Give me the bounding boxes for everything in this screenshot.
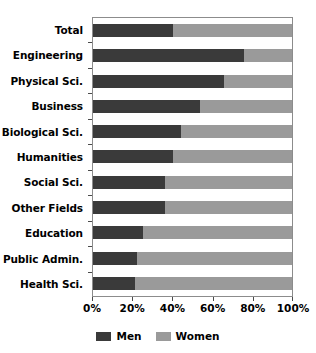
bar-segment-women xyxy=(135,277,292,290)
x-axis-tick-label: 80% xyxy=(240,302,265,314)
bar-row xyxy=(93,18,292,43)
bar-row xyxy=(93,170,292,195)
legend-swatch xyxy=(96,332,111,341)
bar-segment-women xyxy=(181,125,292,138)
stacked-bar xyxy=(93,24,292,37)
bar-row xyxy=(93,94,292,119)
bar-segment-men xyxy=(93,252,137,265)
x-axis-ticks xyxy=(92,297,293,301)
bar-segment-men xyxy=(93,226,143,239)
bar-segment-women xyxy=(224,75,292,88)
stacked-bar xyxy=(93,201,292,214)
bar-row xyxy=(93,220,292,245)
y-axis-label: Total xyxy=(0,17,88,42)
x-axis-tick xyxy=(213,297,214,301)
legend-label: Men xyxy=(116,330,141,342)
stacked-bar xyxy=(93,226,292,239)
bar-segment-women xyxy=(143,226,292,239)
bar-segment-women xyxy=(137,252,292,265)
plot-area xyxy=(92,17,293,297)
x-axis-labels: 0%20%40%60%80%100% xyxy=(92,302,293,318)
chart-legend: MenWomen xyxy=(0,330,316,342)
y-axis-label: Physical Sci. xyxy=(0,68,88,93)
stacked-bar xyxy=(93,176,292,189)
y-axis-label: Health Sci. xyxy=(0,272,88,297)
bar-segment-women xyxy=(173,24,292,37)
bar-segment-men xyxy=(93,24,173,37)
y-axis-label: Social Sci. xyxy=(0,170,88,195)
bar-segment-men xyxy=(93,125,181,138)
legend-item: Men xyxy=(96,330,141,342)
bar-row xyxy=(93,195,292,220)
y-axis-label: Education xyxy=(0,221,88,246)
y-axis-label: Other Fields xyxy=(0,195,88,220)
x-axis-tick-label: 20% xyxy=(120,302,145,314)
stacked-bar-chart: TotalEngineeringPhysical Sci.BusinessBio… xyxy=(0,0,316,353)
bar-segment-men xyxy=(93,100,200,113)
y-axis-label: Engineering xyxy=(0,42,88,67)
x-axis-tick-label: 60% xyxy=(200,302,225,314)
bar-segment-women xyxy=(165,201,292,214)
x-axis-tick xyxy=(132,297,133,301)
bar-row xyxy=(93,144,292,169)
x-axis-tick xyxy=(172,297,173,301)
y-axis-labels: TotalEngineeringPhysical Sci.BusinessBio… xyxy=(0,17,88,297)
legend-item: Women xyxy=(156,330,220,342)
stacked-bar xyxy=(93,150,292,163)
stacked-bar xyxy=(93,125,292,138)
x-axis-tick-label: 40% xyxy=(160,302,185,314)
bar-row xyxy=(93,69,292,94)
x-axis-tick xyxy=(92,297,93,301)
x-axis-tick xyxy=(292,297,293,301)
y-axis-label: Humanities xyxy=(0,144,88,169)
bar-row xyxy=(93,119,292,144)
legend-label: Women xyxy=(176,330,220,342)
y-axis-label: Biological Sci. xyxy=(0,119,88,144)
stacked-bar xyxy=(93,100,292,113)
y-axis-label: Business xyxy=(0,93,88,118)
bar-segment-women xyxy=(244,49,292,62)
x-axis-tick xyxy=(253,297,254,301)
bar-segment-men xyxy=(93,150,173,163)
bar-row xyxy=(93,43,292,68)
x-axis-tick-label: 100% xyxy=(277,302,309,314)
legend-swatch xyxy=(156,332,171,341)
bar-segment-women xyxy=(200,100,292,113)
bar-segment-men xyxy=(93,75,224,88)
bar-segment-women xyxy=(165,176,292,189)
bar-row xyxy=(93,245,292,270)
bar-row xyxy=(93,271,292,296)
stacked-bar xyxy=(93,75,292,88)
bar-segment-women xyxy=(173,150,292,163)
bar-segment-men xyxy=(93,201,165,214)
stacked-bar xyxy=(93,252,292,265)
stacked-bar xyxy=(93,49,292,62)
y-axis-label: Public Admin. xyxy=(0,246,88,271)
bar-rows xyxy=(93,18,292,296)
bar-segment-men xyxy=(93,277,135,290)
stacked-bar xyxy=(93,277,292,290)
bar-segment-men xyxy=(93,49,244,62)
x-axis-tick-label: 0% xyxy=(83,302,101,314)
bar-segment-men xyxy=(93,176,165,189)
